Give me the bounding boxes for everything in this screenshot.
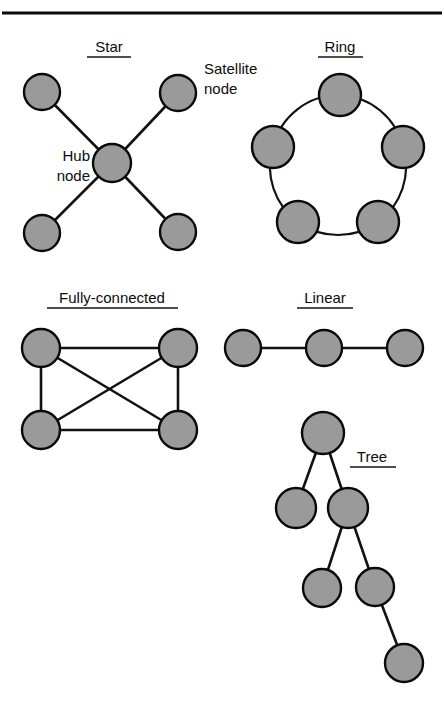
star-satellite-node-upper-right: [160, 75, 196, 111]
topology-diagram-canvas: Star Hub node Satellite node Ring: [0, 0, 444, 721]
tree-node-root: [302, 412, 344, 454]
tree-node-leaf: [385, 644, 423, 682]
tree-node-right-child: [328, 488, 368, 528]
ring-title: Ring: [325, 38, 356, 55]
ring-node-top: [319, 74, 361, 116]
star-hub-label-line1: Hub: [62, 147, 90, 164]
topology-tree: Tree: [276, 412, 423, 682]
topology-star: Star Hub node Satellite node: [24, 38, 257, 251]
tree-title: Tree: [357, 448, 387, 465]
linear-node-right: [387, 330, 423, 366]
star-satellite-label-line1: Satellite: [204, 60, 257, 77]
fully-connected-edges: [41, 348, 178, 430]
topology-fully-connected: Fully-connected: [22, 289, 197, 449]
fc-node-top-right: [159, 329, 197, 367]
fc-node-bottom-right: [159, 411, 197, 449]
star-hub-label-line2: node: [57, 167, 90, 184]
ring-node-right: [382, 126, 424, 168]
linear-title: Linear: [304, 289, 346, 306]
ring-node-bottom-left: [277, 201, 319, 243]
linear-node-left: [225, 330, 261, 366]
tree-node-left-child: [276, 488, 316, 528]
fc-node-top-left: [22, 329, 60, 367]
ring-node-left: [252, 126, 294, 168]
star-title: Star: [95, 38, 123, 55]
ring-node-bottom-right: [357, 201, 399, 243]
tree-node-left-grandchild: [303, 569, 341, 607]
linear-node-middle: [306, 330, 342, 366]
star-satellite-node-lower-right: [160, 214, 196, 250]
star-satellite-label-line2: node: [204, 80, 237, 97]
star-hub-node: [93, 144, 131, 182]
topology-linear: Linear: [225, 289, 423, 366]
star-satellite-node-lower-left: [24, 215, 60, 251]
star-satellite-node-upper-left: [24, 74, 60, 110]
fully-connected-title: Fully-connected: [59, 289, 165, 306]
tree-node-right-grandchild: [356, 568, 394, 606]
topology-ring: Ring: [252, 38, 424, 243]
topology-figure: Star Hub node Satellite node Ring: [0, 0, 444, 721]
fc-node-bottom-left: [22, 411, 60, 449]
